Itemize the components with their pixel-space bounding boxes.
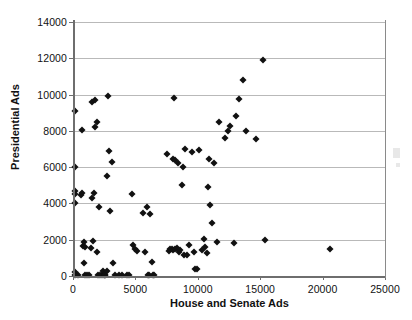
- gridline: [73, 95, 385, 96]
- y-tick-label: 10000: [37, 89, 67, 101]
- plot-area: 02000400060008000100001200014000 0500010…: [73, 22, 385, 276]
- y-axis-line: [73, 20, 75, 278]
- x-tick-label: 25000: [370, 283, 400, 295]
- y-tick-label: 12000: [37, 52, 67, 64]
- scatter-chart-figure: Presidential Ads 02000400060008000100001…: [0, 0, 412, 320]
- y-tick-label: 2000: [43, 234, 67, 246]
- x-axis-title: House and Senate Ads: [73, 297, 386, 309]
- x-axis-line: [73, 276, 386, 278]
- x-tick-label: 15000: [245, 283, 275, 295]
- gridline: [73, 58, 385, 59]
- x-tick-label: 10000: [183, 283, 213, 295]
- plot-right-border: [385, 20, 386, 278]
- x-tick-label: 5000: [124, 283, 148, 295]
- x-tick-label: 20000: [308, 283, 338, 295]
- scan-artifact: [396, 163, 400, 167]
- x-tick-label: 0: [70, 283, 76, 295]
- y-tick-label: 4000: [43, 197, 67, 209]
- y-axis-title-label: Presidential Ads: [9, 84, 21, 170]
- plot-background: [73, 22, 385, 276]
- y-tick-label: 14000: [37, 16, 67, 28]
- scan-artifact: [393, 148, 400, 158]
- gridline: [73, 167, 385, 168]
- y-tick-label: 8000: [43, 125, 67, 137]
- gridline: [73, 22, 385, 23]
- gridline: [73, 203, 385, 204]
- y-tick-label: 0: [61, 270, 67, 282]
- y-tick-label: 6000: [43, 161, 67, 173]
- gridline: [73, 240, 385, 241]
- y-axis-title: Presidential Ads: [6, 0, 24, 254]
